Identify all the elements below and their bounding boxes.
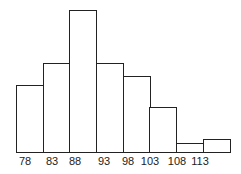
histogram-bar	[149, 107, 177, 153]
x-tick-label: 113	[185, 155, 215, 167]
x-tick-label: 78	[10, 155, 40, 167]
x-tick-label: 88	[60, 155, 90, 167]
histogram-bar	[43, 63, 71, 153]
histogram-bar	[96, 63, 124, 153]
histogram-chart: 7883889398103108113	[0, 0, 241, 174]
histogram-bar	[203, 139, 231, 153]
histogram-bar	[123, 76, 151, 153]
histogram-bar	[69, 10, 97, 153]
histogram-bar	[16, 85, 44, 153]
x-tick-label: 103	[135, 155, 165, 167]
histogram-bar	[176, 143, 204, 153]
